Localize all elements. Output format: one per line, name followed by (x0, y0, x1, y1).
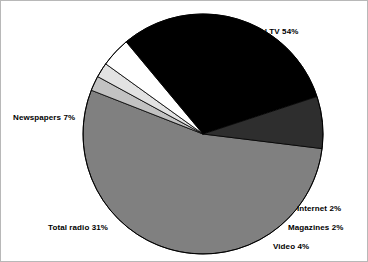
slice-label-newspapers: Newspapers 7% (13, 113, 75, 123)
slice-label-internet: Internet 2% (297, 204, 341, 214)
slice-label-video: Video 4% (273, 242, 309, 252)
pie-slices-group (83, 14, 323, 254)
slice-label-total-radio: Total radio 31% (48, 223, 108, 233)
slice-label-total-tv: Total TV 54% (248, 27, 298, 37)
slice-label-magazines: Magazines 2% (288, 223, 343, 233)
pie-chart-figure: Total TV 54% Internet 2% Magazines 2% Vi… (0, 0, 368, 262)
